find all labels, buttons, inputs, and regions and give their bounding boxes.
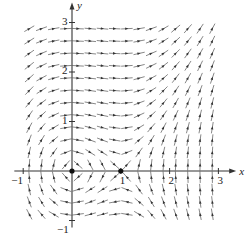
arrowhead-icon xyxy=(39,65,42,68)
arrowhead-icon xyxy=(39,40,42,42)
arrowhead-icon xyxy=(52,77,55,80)
arrowhead-icon xyxy=(137,28,140,31)
y-tick-label: −1 xyxy=(57,223,69,235)
arrowhead-icon xyxy=(64,77,67,80)
arrowhead-icon xyxy=(39,28,42,30)
arrowhead-icon xyxy=(137,127,140,130)
arrowhead-icon xyxy=(76,40,79,43)
arrowhead-icon xyxy=(77,188,80,190)
arrowhead-icon xyxy=(186,52,189,55)
arrowhead-icon xyxy=(149,139,152,142)
arrowhead-icon xyxy=(113,188,116,190)
arrowhead-icon xyxy=(174,126,176,129)
arrowhead-icon xyxy=(138,214,141,217)
arrowhead-icon xyxy=(137,151,140,154)
arrowhead-icon xyxy=(125,52,128,55)
arrowhead-icon xyxy=(52,151,55,154)
arrowhead-icon xyxy=(77,200,80,203)
arrowhead-icon xyxy=(211,213,214,216)
arrowhead-icon xyxy=(113,40,116,43)
arrowhead-icon xyxy=(174,176,177,179)
x-axis-arrowhead-icon xyxy=(229,169,236,174)
equilibrium-dot xyxy=(118,168,123,173)
arrowhead-icon xyxy=(76,89,79,92)
arrowhead-icon xyxy=(186,89,189,92)
arrowhead-icon xyxy=(27,139,29,142)
arrowhead-icon xyxy=(76,52,79,55)
arrowhead-icon xyxy=(64,40,67,43)
arrowhead-icon xyxy=(52,214,55,217)
arrowhead-icon xyxy=(174,89,177,92)
arrowhead-icon xyxy=(187,200,190,203)
arrowhead-icon xyxy=(113,138,116,141)
arrowhead-icon xyxy=(137,40,140,43)
arrowhead-icon xyxy=(52,28,55,31)
arrowhead-icon xyxy=(211,163,214,166)
arrowhead-icon xyxy=(187,163,190,166)
arrowhead-icon xyxy=(162,139,164,142)
arrowhead-icon xyxy=(187,213,190,216)
arrowhead-icon xyxy=(137,77,140,80)
arrowhead-icon xyxy=(163,201,165,204)
arrowhead-icon xyxy=(113,52,116,55)
arrowhead-icon xyxy=(186,139,189,142)
y-axis-arrowhead-icon xyxy=(70,3,75,10)
arrowhead-icon xyxy=(186,114,188,117)
arrowhead-icon xyxy=(198,40,201,43)
arrowhead-icon xyxy=(28,163,31,166)
arrowhead-icon xyxy=(137,102,140,104)
arrowhead-icon xyxy=(137,90,140,92)
arrowhead-icon xyxy=(187,176,190,179)
arrowhead-icon xyxy=(39,53,42,55)
arrowhead-icon xyxy=(161,40,164,43)
arrowhead-icon xyxy=(198,89,200,92)
equilibrium-dot xyxy=(69,168,74,173)
arrowhead-icon xyxy=(89,213,92,216)
arrowhead-icon xyxy=(211,126,214,129)
y-axis-label: y xyxy=(76,0,82,11)
arrowhead-icon xyxy=(101,200,104,202)
axes: x y xyxy=(14,0,244,227)
arrowhead-icon xyxy=(174,151,177,154)
arrowhead-icon xyxy=(125,77,128,80)
direction-field-plot: x y −1123−1123 xyxy=(0,0,245,239)
arrowhead-icon xyxy=(27,114,30,117)
arrowhead-icon xyxy=(29,201,31,204)
arrowhead-icon xyxy=(113,200,116,203)
arrowhead-icon xyxy=(162,163,165,166)
y-tick-label: 1 xyxy=(62,114,68,126)
x-axis-label: x xyxy=(238,165,244,177)
arrowhead-icon xyxy=(113,77,116,80)
arrowhead-icon xyxy=(186,65,189,68)
arrowhead-icon xyxy=(27,40,30,43)
arrowhead-icon xyxy=(76,151,79,153)
arrowhead-icon xyxy=(161,28,164,31)
arrowhead-icon xyxy=(149,40,152,42)
arrowhead-icon xyxy=(52,90,55,92)
arrowhead-icon xyxy=(100,150,103,153)
arrowhead-icon xyxy=(211,188,214,191)
x-tick-label: −1 xyxy=(11,174,23,186)
arrowhead-icon xyxy=(211,77,213,80)
x-tick-label: 3 xyxy=(217,174,223,186)
arrowhead-icon xyxy=(149,65,152,68)
arrowhead-icon xyxy=(64,189,67,191)
arrowhead-icon xyxy=(113,89,116,92)
arrowhead-icon xyxy=(28,176,31,179)
arrowhead-icon xyxy=(40,139,43,142)
arrowhead-icon xyxy=(64,127,67,130)
arrowhead-icon xyxy=(161,114,164,117)
x-tick-label: 1 xyxy=(120,174,126,186)
arrowhead-icon xyxy=(175,188,178,191)
arrowhead-icon xyxy=(211,89,213,92)
arrowhead-icon xyxy=(88,89,91,92)
arrowhead-icon xyxy=(137,115,140,118)
arrowhead-icon xyxy=(101,213,104,216)
arrowhead-icon xyxy=(41,188,43,191)
arrowhead-icon xyxy=(174,114,177,117)
arrowhead-icon xyxy=(100,138,103,140)
arrowhead-icon xyxy=(151,188,153,191)
arrowhead-icon xyxy=(149,151,151,154)
arrowhead-icon xyxy=(76,138,79,141)
arrowhead-icon xyxy=(64,52,67,55)
